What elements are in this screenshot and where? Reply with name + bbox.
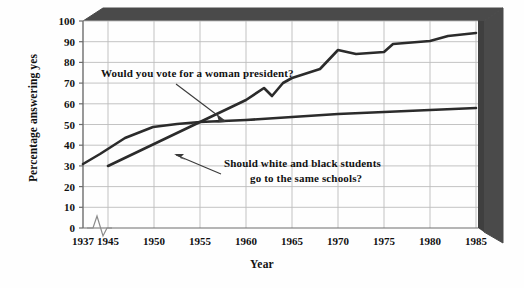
x-tick-label: 1975 (361, 236, 407, 247)
x-tick-label: 1950 (131, 236, 177, 247)
y-tick-label: 0 (41, 223, 75, 234)
y-tick-label: 40 (41, 140, 75, 151)
y-tick-label: 70 (41, 78, 75, 89)
x-tick-label: 1955 (177, 236, 223, 247)
chart-plot-region: 100 90 80 70 60 50 40 30 20 10 0 1937 19… (0, 0, 524, 288)
y-tick-label: 10 (41, 202, 75, 213)
annotation-same-schools-line2: go to the same schools? (224, 171, 381, 186)
x-tick-label: 1945 (85, 236, 131, 247)
x-tick-label: 1960 (223, 236, 269, 247)
x-tick-label: 1965 (269, 236, 315, 247)
y-tick-label: 60 (41, 99, 75, 110)
annotation-same-schools-line1: Should white and black students (224, 157, 381, 169)
x-tick-label: 1980 (407, 236, 453, 247)
annotation-woman-president: Would you vote for a woman president? (101, 66, 294, 81)
y-tick-label: 90 (41, 37, 75, 48)
x-tick-label: 1970 (315, 236, 361, 247)
x-tick-label: 1985 (453, 236, 499, 247)
frame-right-shadow (484, 8, 503, 243)
y-tick-label: 20 (41, 182, 75, 193)
y-tick-label: 50 (41, 120, 75, 131)
annotation-same-schools: Should white and black students go to th… (224, 156, 381, 186)
chart-figure: 100 90 80 70 60 50 40 30 20 10 0 1937 19… (0, 0, 524, 288)
y-axis-title: Percentage answering yes (27, 23, 39, 213)
frame-right-inner-edge (478, 21, 484, 232)
y-tick-label: 100 (41, 16, 75, 27)
y-tick-label: 30 (41, 161, 75, 172)
y-tick-label: 80 (41, 57, 75, 68)
x-axis-title: Year (0, 258, 524, 270)
frame-top-shadow (83, 8, 503, 21)
